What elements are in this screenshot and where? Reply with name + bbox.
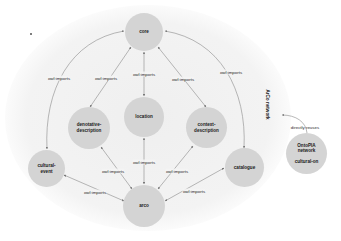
edge-label-location-core: owl:imports <box>132 72 155 77</box>
node-catalogue-label: catalogue <box>234 165 255 171</box>
arco-network-title: ArCo network <box>265 89 270 119</box>
node-cultural-event-label: cultural- event <box>37 163 55 174</box>
diagram-canvas <box>0 0 341 241</box>
node-ontopia-cultural-on[interactable]: OntoPIA network cultural-on <box>286 133 327 174</box>
node-arco-label: arco <box>139 203 149 209</box>
node-location[interactable]: location <box>124 97 164 137</box>
edge-label-arco-location: owl:imports <box>132 160 155 165</box>
edge-label-denotative-core: owl:imports <box>94 76 117 81</box>
node-core[interactable]: core <box>125 13 163 51</box>
node-ontopia-label: OntoPIA network cultural-on <box>295 143 319 164</box>
stray-dot <box>30 33 32 35</box>
arco-network-diagram: core location denotative- description co… <box>0 0 341 241</box>
node-core-label: core <box>139 29 149 35</box>
edge-label-arco-denotative: owl:imports <box>101 169 124 174</box>
edge-label-context-core: owl:imports <box>171 77 194 82</box>
edge-label-arco-context: owl:imports <box>165 169 188 174</box>
edge-label-directly-reuses: directly reuses <box>290 125 319 130</box>
edge-label-arco-catalogue: owl:imports <box>182 189 205 194</box>
edge-label-catalogue-core: owl:imports <box>219 70 242 75</box>
node-context-description[interactable]: context- description <box>186 107 227 148</box>
edge-label-arco-cultural-event: owl:imports <box>83 190 106 195</box>
node-catalogue[interactable]: catalogue <box>225 148 264 187</box>
edge-label-cultural-event-core: owl:imports <box>47 76 70 81</box>
node-location-label: location <box>135 114 153 120</box>
node-denotative-description[interactable]: denotative- description <box>68 107 110 149</box>
node-context-description-label: context- description <box>194 122 219 133</box>
node-arco[interactable]: arco <box>123 185 165 227</box>
node-denotative-description-label: denotative- description <box>77 122 102 133</box>
node-cultural-event[interactable]: cultural- event <box>28 150 65 187</box>
